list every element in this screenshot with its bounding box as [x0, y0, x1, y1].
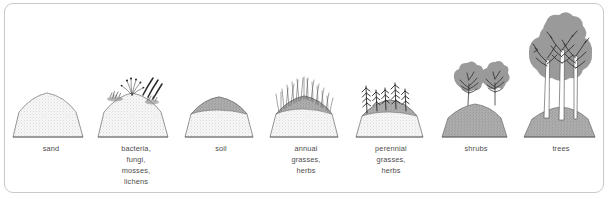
stage-panel-sand: sand: [6, 0, 96, 199]
stage-panel-microbes: bacteria, fungi, mosses, lichens: [91, 0, 181, 199]
stage-panel-perennial-grasses: perennial grasses, herbs: [346, 0, 436, 199]
sand-mound-icon: [6, 0, 96, 140]
succession-diagram: sand: [0, 0, 611, 199]
stage-panel-trees: trees: [516, 0, 606, 199]
stage-panel-soil: soil: [176, 0, 266, 199]
stage-panel-annual-grasses: annual grasses, herbs: [261, 0, 351, 199]
stage-label-trees: trees: [510, 143, 611, 154]
tree-icon: [516, 0, 606, 140]
perennial-grass-icon: [346, 0, 436, 140]
soil-mound-icon: [176, 0, 266, 140]
label-line: grasses,: [340, 154, 442, 165]
label-line: fungi,: [85, 154, 187, 165]
shrub-icon: [431, 0, 521, 140]
microbe-sprout-icon: [91, 0, 181, 140]
label-line: mosses,: [85, 165, 187, 176]
annual-grass-icon: [261, 0, 351, 140]
label-line: trees: [510, 143, 611, 154]
label-line: herbs: [340, 165, 442, 176]
stage-panel-shrubs: shrubs: [431, 0, 521, 199]
label-line: lichens: [85, 176, 187, 187]
